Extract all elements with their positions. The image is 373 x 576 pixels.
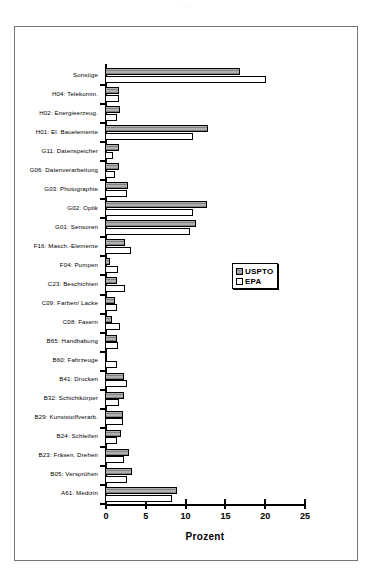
bar-epa xyxy=(105,304,117,311)
y-axis-label-row: C08: Fasern xyxy=(16,318,98,328)
y-axis-label-row: B24: Schleifen xyxy=(16,432,98,442)
y-axis-label: G06: Datenverarbeitung xyxy=(30,166,98,173)
y-axis-label-row: G01: Sensoren xyxy=(16,223,98,233)
x-tick-label: 5 xyxy=(143,511,148,521)
y-axis-label: G02: Optik xyxy=(67,204,98,211)
y-axis-label-row: Sonstige xyxy=(16,71,98,81)
page-number-artifact: ... xyxy=(0,3,373,9)
bar-uspto xyxy=(105,220,196,227)
y-axis-label-row: C23: Beschichten xyxy=(16,280,98,290)
y-axis-label: F04: Pumpen xyxy=(60,261,98,268)
x-axis-title: Prozent xyxy=(105,531,305,542)
bar-uspto xyxy=(105,354,107,361)
legend-item-uspto: USPTO xyxy=(236,266,273,276)
bar-epa xyxy=(105,171,115,178)
bar-epa xyxy=(105,114,117,121)
bar-epa xyxy=(105,133,193,140)
y-axis-label-row: B60: Fahrzeuge xyxy=(16,356,98,366)
y-axis-label: B65: Handhabung xyxy=(47,337,98,344)
bar-epa xyxy=(105,399,119,406)
bar-epa xyxy=(105,342,118,349)
bar-uspto xyxy=(105,87,119,94)
bar-uspto xyxy=(105,335,117,342)
x-tick-label: 0 xyxy=(103,511,108,521)
y-axis-label: H04: Telekomm. xyxy=(52,90,98,97)
y-axis-label: C08: Fasern xyxy=(63,318,98,325)
y-axis-label: B41: Drucken xyxy=(59,375,98,382)
y-axis-label-row: B29: Kunststoffverarb. xyxy=(16,413,98,423)
bar-epa xyxy=(105,285,125,292)
chart-page: ... 0510152025 SonstigeH04: Telekomm.H02… xyxy=(0,0,373,576)
x-tick-label: 25 xyxy=(300,511,310,521)
bar-uspto xyxy=(105,487,177,494)
bar-uspto xyxy=(105,258,110,265)
bar-epa xyxy=(105,190,127,197)
y-axis-label-row: A61: Medizin xyxy=(16,489,98,499)
y-axis-label: B29: Kunststoffverarb. xyxy=(35,413,98,420)
y-axis-label: A61: Medizin xyxy=(61,489,98,496)
y-axis-label-row: B23: Fräsen, Drehen xyxy=(16,451,98,461)
bar-uspto xyxy=(105,201,207,208)
y-axis-label-row: C09: Farben/ Lacke xyxy=(16,299,98,309)
y-axis-label-row: F16: Masch.-Elemente xyxy=(16,242,98,252)
bar-uspto xyxy=(105,239,125,246)
y-axis-label-row: H04: Telekomm. xyxy=(16,90,98,100)
bar-epa xyxy=(105,209,193,216)
y-axis-label-row: B32: Schichtkörper xyxy=(16,394,98,404)
bar-epa xyxy=(105,380,127,387)
y-axis-label: B24: Schleifen xyxy=(57,432,98,439)
legend-swatch-uspto xyxy=(236,268,243,275)
y-axis-label: C23: Beschichten xyxy=(48,280,98,287)
y-axis-label-row: F04: Pumpen xyxy=(16,261,98,271)
y-axis-label-row: B65: Handhabung xyxy=(16,337,98,347)
y-axis-label-row: B05: Versprühen xyxy=(16,470,98,480)
bar-uspto xyxy=(105,449,129,456)
bar-uspto xyxy=(105,411,123,418)
y-axis-label: B32: Schichtkörper xyxy=(44,394,98,401)
x-axis-line xyxy=(105,504,305,506)
bar-uspto xyxy=(105,430,121,437)
y-axis-label: G03: Photographie xyxy=(44,185,98,192)
bar-uspto xyxy=(105,125,208,132)
bar-epa xyxy=(105,361,117,368)
y-axis-label: B23: Fräsen, Drehen xyxy=(39,451,98,458)
y-axis-label-row: H01: El. Bauelemente xyxy=(16,128,98,138)
bar-uspto xyxy=(105,144,119,151)
bar-epa xyxy=(105,323,120,330)
bar-epa xyxy=(105,437,117,444)
bar-uspto xyxy=(105,468,132,475)
legend-item-epa: EPA xyxy=(236,276,273,286)
bar-epa xyxy=(105,95,119,102)
bar-epa xyxy=(105,152,113,159)
bar-uspto xyxy=(105,163,119,170)
legend-label-uspto: USPTO xyxy=(245,267,273,276)
bar-epa xyxy=(105,476,127,483)
y-axis-label: B60: Fahrzeuge xyxy=(53,356,98,363)
y-axis-label: F16: Masch.-Elemente xyxy=(34,242,98,249)
x-tick-label: 10 xyxy=(181,511,191,521)
y-axis-label-row: G03: Photographie xyxy=(16,185,98,195)
y-axis-label-row: G11: Datenspeicher xyxy=(16,147,98,157)
bar-epa xyxy=(105,418,123,425)
legend-label-epa: EPA xyxy=(245,277,261,286)
y-axis-label-row: G06: Datenverarbeitung xyxy=(16,166,98,176)
bar-epa xyxy=(105,456,124,463)
y-axis-label: H02: Energieerzeug. xyxy=(39,109,98,116)
y-axis-label: B05: Versprühen xyxy=(50,470,98,477)
bar-uspto xyxy=(105,297,115,304)
bar-epa xyxy=(105,228,190,235)
y-axis-label: H01: El. Bauelemente xyxy=(36,128,98,135)
y-axis-label: G01: Sensoren xyxy=(55,223,98,230)
y-axis-label: Sonstige xyxy=(73,71,98,78)
y-axis-label-row: H02: Energieerzeug. xyxy=(16,109,98,119)
bar-uspto xyxy=(105,106,120,113)
y-axis-label: G11: Datenspeicher xyxy=(42,147,98,154)
bar-uspto xyxy=(105,373,124,380)
legend-swatch-epa xyxy=(236,278,243,285)
chart-legend: USPTO EPA xyxy=(232,263,278,289)
x-tick-label: 20 xyxy=(260,511,270,521)
bar-uspto xyxy=(105,392,124,399)
y-axis-label-row: B41: Drucken xyxy=(16,375,98,385)
y-axis-label-row: G02: Optik xyxy=(16,204,98,214)
bar-uspto xyxy=(105,316,112,323)
